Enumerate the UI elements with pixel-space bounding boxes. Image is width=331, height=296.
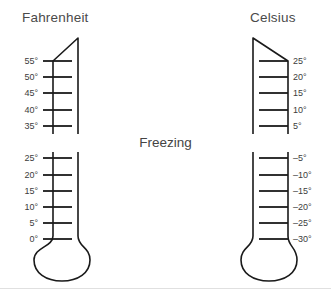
fahrenheit-scale-label: 50° [2,73,38,82]
fahrenheit-scale-label: 15° [2,187,38,196]
celsius-scale-label: 10° [293,106,329,115]
freezing-annotation-label: Freezing [0,134,331,152]
fahrenheit-scale-label: 5° [2,219,38,228]
celsius-scale-label: 15° [293,89,329,98]
celsius-scale-label: –10° [293,171,329,180]
fahrenheit-scale-label: 35° [2,122,38,131]
fahrenheit-heading: Fahrenheit [22,10,89,25]
celsius-heading: Celsius [250,10,296,25]
fahrenheit-thermometer-outline [34,38,90,281]
celsius-scale-label: 5° [293,122,329,131]
fahrenheit-scale-label: 25° [2,154,38,163]
fahrenheit-scale-label: 20° [2,171,38,180]
bottom-divider [0,288,331,289]
fahrenheit-scale-label: 55° [2,57,38,66]
celsius-scale-label: –15° [293,187,329,196]
fahrenheit-scale-label: 45° [2,89,38,98]
celsius-scale-label: 25° [293,57,329,66]
fahrenheit-scale-label: 0° [2,235,38,244]
fahrenheit-scale-label: 40° [2,106,38,115]
celsius-scale-label: –5° [293,154,329,163]
celsius-scale-label: –30° [293,235,329,244]
thermometer-comparison-figure: Fahrenheit Celsius 55° 50° 45° 40° 35° 3… [0,0,331,296]
celsius-scale-label: –25° [293,219,329,228]
celsius-scale-label: 20° [293,73,329,82]
celsius-scale-label: –20° [293,203,329,212]
fahrenheit-scale-label: 10° [2,203,38,212]
celsius-thermometer-outline [241,38,297,281]
